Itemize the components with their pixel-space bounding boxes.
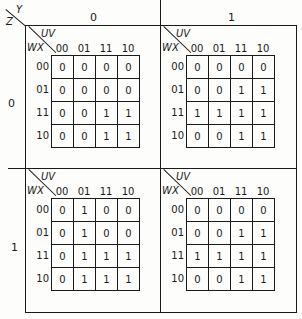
wx-label: WX	[162, 185, 179, 196]
kmap-cell: 1	[253, 222, 275, 245]
kmap-cell: 1	[118, 245, 140, 268]
kmap-grid: 0000001111110011	[186, 198, 275, 291]
kmap-cell: 0	[52, 79, 74, 102]
kmap-cell: 1	[118, 125, 140, 148]
uv-label: UV	[41, 171, 55, 182]
kmap-cell: 1	[209, 102, 231, 125]
row-header-1: 1	[11, 242, 18, 253]
kmap-cell: 0	[74, 79, 96, 102]
kmap-cell: 1	[231, 222, 253, 245]
kmap-grid: 0000001111110011	[186, 55, 275, 148]
kmap-cell: 1	[118, 268, 140, 291]
column-header-1: 1	[228, 12, 235, 23]
kmap-cell: 1	[253, 268, 275, 291]
kmap-cell: 1	[253, 79, 275, 102]
row-label: 11	[164, 107, 184, 118]
col-label: 01	[73, 43, 95, 54]
kmap-grid: 0100010001110111	[51, 198, 140, 291]
kmap-row: 0000	[187, 199, 275, 222]
col-label: 00	[51, 43, 73, 54]
kmap-row: 0011	[52, 125, 140, 148]
wx-label: WX	[27, 185, 44, 196]
kmap-cell: 0	[52, 125, 74, 148]
kmap-y0-z1: UVWX00011110000111100100010001110111	[25, 170, 145, 290]
kmap-cell: 0	[253, 56, 275, 79]
uv-label: UV	[176, 171, 190, 182]
kmap-row: 0011	[187, 125, 275, 148]
kmap-y1-z0: UVWX00011110000111100000001111110011	[160, 27, 280, 147]
col-label: 01	[208, 186, 230, 197]
kmap-cell: 0	[52, 245, 74, 268]
kmap-cell: 0	[74, 56, 96, 79]
kmap-cell: 0	[209, 222, 231, 245]
kmap-cell: 0	[52, 268, 74, 291]
row-label: 01	[29, 227, 49, 238]
kmap-cell: 0	[96, 79, 118, 102]
col-label: 10	[252, 43, 274, 54]
kmap-cell: 0	[74, 125, 96, 148]
column-header-0: 0	[90, 12, 97, 23]
kmap-cell: 1	[253, 102, 275, 125]
kmap-cell: 0	[209, 125, 231, 148]
kmap-cell: 0	[209, 199, 231, 222]
row-header-0: 0	[8, 98, 15, 109]
kmap-cell: 0	[209, 56, 231, 79]
col-label: 11	[230, 186, 252, 197]
kmap-cell: 1	[231, 245, 253, 268]
kmap-cell: 0	[52, 56, 74, 79]
col-label: 00	[186, 43, 208, 54]
col-label: 01	[73, 186, 95, 197]
col-label: 10	[117, 43, 139, 54]
kmap-cell: 1	[74, 245, 96, 268]
karnaugh-map-diagram: Y Z 0 1 0 1 UVWX000111100001111000000000…	[0, 0, 302, 319]
corner-y-label: Y	[16, 4, 22, 15]
kmap-cell: 1	[231, 79, 253, 102]
kmap-y0-z0: UVWX00011110000111100000000000110011	[25, 27, 145, 147]
kmap-cell: 0	[118, 79, 140, 102]
kmap-cell: 0	[209, 79, 231, 102]
col-label: 00	[51, 186, 73, 197]
wx-label: WX	[27, 42, 44, 53]
wx-label: WX	[162, 42, 179, 53]
kmap-cell: 0	[231, 199, 253, 222]
kmap-row: 0100	[52, 199, 140, 222]
row-label: 10	[164, 130, 184, 141]
kmap-cell: 1	[253, 245, 275, 268]
kmap-y1-z1: UVWX00011110000111100000001111110011	[160, 170, 280, 290]
row-label: 00	[29, 204, 49, 215]
row-label: 00	[164, 61, 184, 72]
kmap-cell: 1	[74, 199, 96, 222]
row-label: 00	[164, 204, 184, 215]
kmap-cell: 0	[96, 199, 118, 222]
row-label: 11	[29, 107, 49, 118]
kmap-cell: 1	[187, 102, 209, 125]
kmap-cell: 1	[231, 268, 253, 291]
kmap-cell: 1	[231, 102, 253, 125]
row-label: 11	[164, 250, 184, 261]
frame-right	[296, 25, 297, 313]
kmap-cell: 1	[253, 125, 275, 148]
kmap-cell: 0	[118, 56, 140, 79]
kmap-row: 0011	[52, 102, 140, 125]
kmap-cell: 1	[209, 245, 231, 268]
kmap-cell: 1	[118, 102, 140, 125]
row-label: 01	[29, 84, 49, 95]
kmap-row: 0111	[52, 245, 140, 268]
row-label: 01	[164, 227, 184, 238]
uv-label: UV	[176, 28, 190, 39]
kmap-cell: 0	[52, 222, 74, 245]
kmap-cell: 0	[74, 102, 96, 125]
kmap-cell: 0	[187, 56, 209, 79]
col-label: 10	[252, 186, 274, 197]
kmap-cell: 0	[96, 56, 118, 79]
row-label: 10	[29, 130, 49, 141]
kmap-row: 0000	[52, 56, 140, 79]
kmap-cell: 0	[96, 222, 118, 245]
row-label: 00	[29, 61, 49, 72]
kmap-grid: 0000000000110011	[51, 55, 140, 148]
kmap-cell: 0	[187, 125, 209, 148]
kmap-row: 0111	[52, 268, 140, 291]
kmap-row: 0011	[187, 268, 275, 291]
kmap-cell: 0	[52, 102, 74, 125]
corner-z-label: Z	[6, 16, 13, 27]
